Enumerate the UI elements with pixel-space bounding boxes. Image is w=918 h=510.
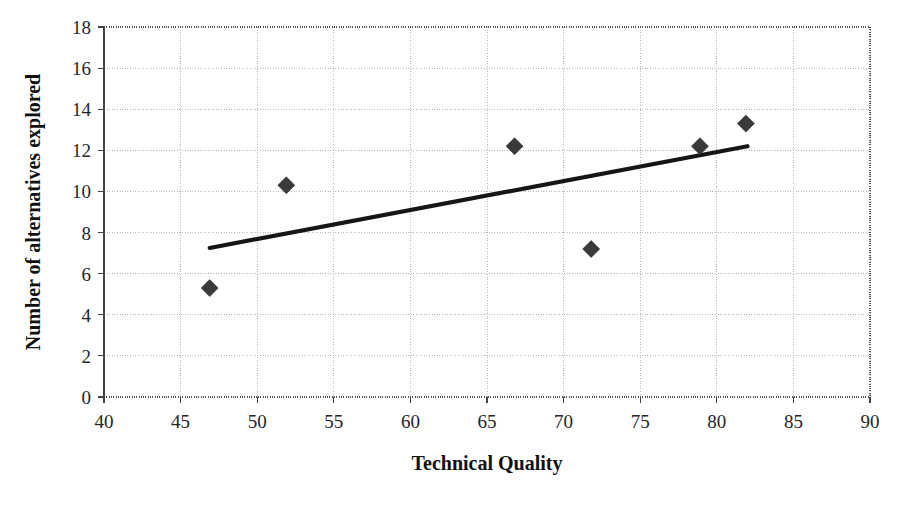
x-tick-label: 90 — [861, 411, 880, 432]
y-axis-title: Number of alternatives explored — [22, 74, 45, 350]
x-tick-label: 80 — [707, 411, 726, 432]
x-tick-label: 85 — [784, 411, 803, 432]
x-tick-label: 70 — [554, 411, 573, 432]
x-tick-label: 40 — [95, 411, 114, 432]
x-tick-label: 60 — [401, 411, 420, 432]
y-tick-label: 0 — [82, 387, 92, 408]
y-tick-label: 2 — [82, 346, 92, 367]
y-tick-label: 8 — [82, 223, 92, 244]
scatter-plot-figure: 024681012141618 4045505560657075808590 T… — [0, 0, 918, 510]
y-tick-label: 4 — [82, 305, 92, 326]
x-tick-label: 45 — [171, 411, 190, 432]
chart-background — [0, 0, 918, 510]
y-tick-label: 18 — [72, 17, 91, 38]
x-axis-title: Technical Quality — [412, 452, 563, 475]
y-tick-label: 6 — [82, 264, 92, 285]
x-tick-label: 75 — [631, 411, 650, 432]
y-tick-label: 16 — [72, 58, 91, 79]
y-tick-label: 10 — [72, 181, 91, 202]
y-tick-label: 14 — [72, 99, 92, 120]
chart-canvas: 024681012141618 4045505560657075808590 T… — [0, 0, 918, 510]
y-tick-label: 12 — [72, 140, 91, 161]
x-tick-label: 55 — [324, 411, 343, 432]
x-tick-label: 50 — [248, 411, 267, 432]
x-tick-label: 65 — [478, 411, 497, 432]
